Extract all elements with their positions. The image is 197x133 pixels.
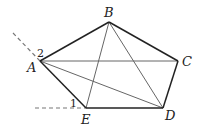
label-C: C [182, 54, 192, 69]
segment-BD [109, 22, 163, 108]
angle-label-1: 1 [70, 97, 77, 110]
pentagon-diagram: A B C D E 2 1 [0, 0, 197, 133]
label-B: B [103, 5, 114, 20]
edge-AB [40, 22, 109, 61]
label-D: D [164, 108, 176, 123]
segment-AD [40, 61, 163, 108]
dashed-line-0 [13, 33, 40, 61]
angle-label-2: 2 [37, 47, 44, 60]
diagonals [40, 22, 178, 108]
pentagon-edges [40, 22, 178, 108]
label-E: E [80, 112, 91, 127]
segment-BE [86, 22, 109, 108]
label-A: A [26, 60, 36, 75]
edge-EA [40, 61, 86, 108]
edge-BC [109, 22, 178, 61]
edge-CD [163, 61, 178, 108]
